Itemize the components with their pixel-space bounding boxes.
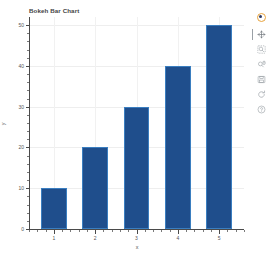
x-axis: x 12345 [29,230,245,260]
x-tick [54,230,55,234]
bar[interactable] [41,188,67,229]
x-tick-minor [103,230,104,232]
x-tick-minor [37,230,38,232]
y-tick-minor [27,74,29,75]
y-tick-minor [27,41,29,42]
y-tick-minor [27,164,29,165]
page-title: Bokeh Bar Chart [29,7,79,14]
x-tick-label: 1 [52,235,55,241]
x-tick [137,230,138,234]
x-tick [219,230,220,234]
x-tick-label: 5 [218,235,221,241]
save-icon [257,75,266,84]
y-tick-minor [27,180,29,181]
pan-tool-button[interactable] [253,27,269,42]
y-tick-label: 30 [18,104,24,110]
pan-icon [257,30,266,39]
x-tick-minor [161,230,162,232]
bokeh-logo-icon[interactable] [257,13,266,22]
x-tick-minor [170,230,171,232]
x-tick-label: 2 [94,235,97,241]
y-tick [26,188,30,189]
wheel-zoom-tool-button[interactable] [253,57,269,72]
reset-tool-button[interactable] [253,87,269,102]
reset-icon [257,90,266,99]
bar[interactable] [82,147,108,229]
y-tick-minor [27,90,29,91]
bar[interactable] [124,107,150,229]
y-tick-label: 10 [18,185,24,191]
y-tick-minor [27,99,29,100]
x-tick-minor [236,230,237,232]
x-tick-minor [29,230,30,232]
y-tick-minor [27,123,29,124]
y-tick-minor [27,139,29,140]
x-tick [95,230,96,234]
y-tick-label: 20 [18,144,24,150]
y-tick-label: 0 [21,226,24,232]
bar[interactable] [206,25,232,229]
y-tick-minor [27,33,29,34]
y-axis-title: y [0,123,6,126]
x-tick-minor [120,230,121,232]
toolbar[interactable] [251,13,271,117]
y-tick-minor [27,131,29,132]
y-tick [26,25,30,26]
x-tick-minor [87,230,88,232]
plot-frame[interactable] [29,17,244,230]
y-tick-minor [27,205,29,206]
y-tick-label: 50 [18,22,24,28]
save-tool-button[interactable] [253,72,269,87]
y-tick-minor [27,156,29,157]
x-tick-minor [186,230,187,232]
y-tick-minor [27,58,29,59]
bar[interactable] [165,66,191,229]
wheel-zoom-icon [257,60,266,69]
y-tick-label: 40 [18,63,24,69]
x-tick-minor [153,230,154,232]
y-tick-minor [27,213,29,214]
y-axis-line [29,17,30,230]
x-tick-minor [62,230,63,232]
y-tick-minor [27,172,29,173]
x-tick-minor [203,230,204,232]
y-axis: y 01020304050 [0,17,29,231]
x-tick-label: 4 [176,235,179,241]
box-zoom-icon [257,45,266,54]
x-tick-minor [112,230,113,232]
x-tick-minor [79,230,80,232]
help-icon [257,105,266,114]
x-tick-minor [145,230,146,232]
x-tick-minor [211,230,212,232]
y-tick-minor [27,115,29,116]
x-tick-minor [46,230,47,232]
box-zoom-tool-button[interactable] [253,42,269,57]
x-tick-minor [70,230,71,232]
bokeh-plot: Bokeh Bar Chart y 01020304050 x 12345 [0,0,273,267]
y-tick [26,107,30,108]
x-tick [178,230,179,234]
help-tool-button[interactable] [253,102,269,117]
y-tick-minor [27,196,29,197]
y-tick [26,66,30,67]
x-tick-minor [244,230,245,232]
x-tick-minor [128,230,129,232]
x-tick-minor [194,230,195,232]
y-tick-minor [27,50,29,51]
x-tick-minor [227,230,228,232]
y-tick-minor [27,221,29,222]
y-tick-minor [27,82,29,83]
y-tick [26,147,30,148]
x-tick-label: 3 [135,235,138,241]
x-axis-title: x [136,244,139,250]
